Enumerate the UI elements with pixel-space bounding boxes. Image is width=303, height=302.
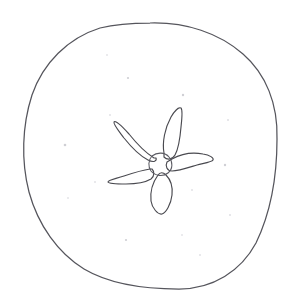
drawing-canvas [0,0,303,302]
paper-speck [181,234,183,236]
paper-speck [127,77,129,79]
paper-background [0,0,303,302]
paper-speck [229,214,231,216]
paper-speck [227,119,229,121]
paper-speck [199,254,201,256]
paper-speck [125,239,127,241]
paper-speck [67,197,69,199]
paper-speck [182,94,184,96]
paper-speck [106,54,108,56]
paper-speck [94,181,96,183]
paper-speck [109,114,111,116]
line-drawing-svg [0,0,303,302]
paper-speck [64,144,67,147]
paper-speck [191,189,193,191]
paper-speck [224,164,226,166]
